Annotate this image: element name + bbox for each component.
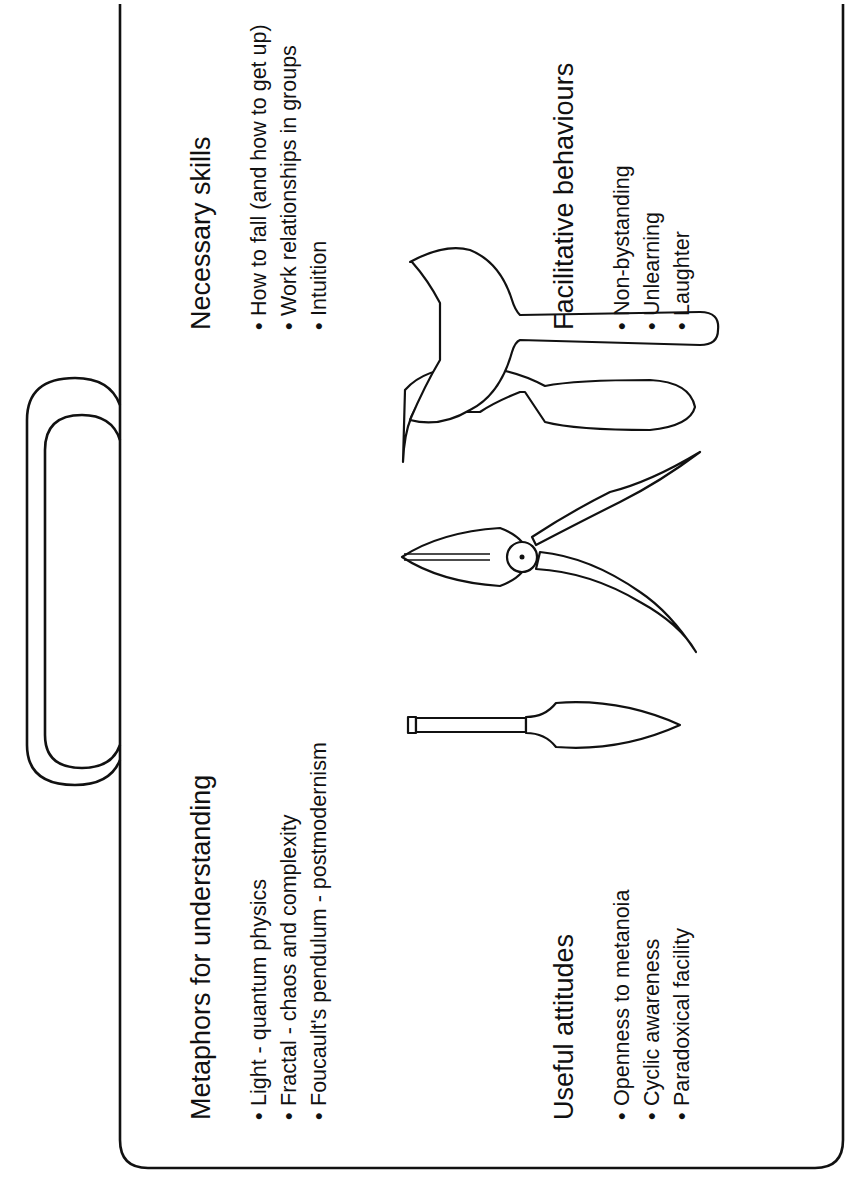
list-item: Light - quantum physics — [247, 879, 271, 1106]
list-item: Intuition — [307, 241, 331, 316]
section-facilitative-behaviours: Facilitative behaviours • Non-bystanding… — [549, 63, 694, 330]
pliers-icon — [402, 452, 700, 652]
list-bullet: • — [247, 322, 271, 330]
list-item: Work relationships in groups — [277, 45, 301, 316]
toolbox-diagram: Metaphors for understanding • Light - qu… — [0, 0, 855, 1182]
list-bullet: • — [670, 322, 694, 330]
list-bullet: • — [277, 1112, 301, 1120]
list-item: Paradoxical facility — [670, 928, 694, 1106]
list-item: Laughter — [670, 231, 694, 316]
list-bullet: • — [670, 1112, 694, 1120]
screwdriver-icon — [408, 702, 680, 748]
list-bullet: • — [640, 322, 664, 330]
list-bullet: • — [247, 1112, 271, 1120]
handle-inner — [45, 415, 120, 768]
list-item: Fractal - chaos and complexity — [277, 814, 301, 1106]
section-necessary-skills: Necessary skills • How to fall (and how … — [186, 24, 331, 330]
list-item: Non-bystanding — [610, 165, 634, 316]
list-item: Foucault's pendulum - postmodernism — [307, 742, 331, 1106]
toolbox-handle — [27, 378, 120, 785]
list-item: Cyclic awareness — [640, 939, 664, 1106]
list-item: Unlearning — [640, 212, 664, 316]
list-bullet: • — [307, 1112, 331, 1120]
list-bullet: • — [640, 1112, 664, 1120]
section-metaphors: Metaphors for understanding • Light - qu… — [186, 742, 331, 1120]
section-heading: Necessary skills — [186, 136, 216, 330]
list-bullet: • — [307, 322, 331, 330]
section-useful-attitudes: Useful attitudes • Openness to metanoia … — [549, 890, 694, 1120]
list-bullet: • — [610, 1112, 634, 1120]
tools-group — [402, 367, 700, 748]
toolbox-body — [120, 4, 843, 1168]
list-item: Openness to metanoia — [610, 890, 634, 1106]
handle-outer — [27, 378, 120, 785]
list-bullet: • — [610, 322, 634, 330]
section-heading: Facilitative behaviours — [549, 63, 579, 330]
list-item: How to fall (and how to get up) — [247, 24, 271, 316]
section-heading: Useful attitudes — [549, 934, 579, 1120]
section-heading: Metaphors for understanding — [186, 775, 216, 1120]
list-bullet: • — [277, 322, 301, 330]
